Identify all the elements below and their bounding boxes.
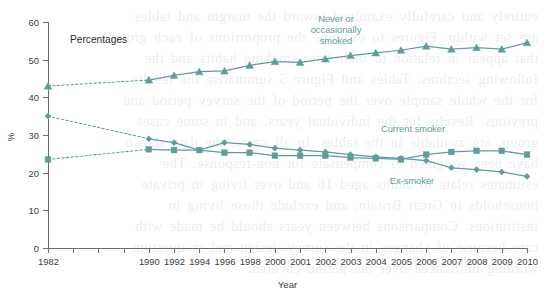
data-point-marker-diamond xyxy=(221,139,227,145)
annotation-never-smoked-line2: occasionally xyxy=(311,25,362,35)
data-point-marker-triangle xyxy=(523,39,531,46)
series-line-dashed xyxy=(48,149,149,159)
data-point-marker-square xyxy=(196,147,202,153)
x-tick-label: 2004 xyxy=(366,256,387,267)
x-tick-label: 2005 xyxy=(391,256,412,267)
data-point-marker-diamond xyxy=(45,113,51,119)
x-tick-label: 1998 xyxy=(240,256,261,267)
axes xyxy=(43,22,528,253)
x-axis-title: Year xyxy=(278,279,298,290)
chart-container: 0102030405060 19821990199219941996199820… xyxy=(0,0,548,296)
series-line-solid xyxy=(149,149,527,159)
y-tick-label: 60 xyxy=(29,17,39,28)
series-line-dashed xyxy=(48,80,149,86)
x-tick-label: 1990 xyxy=(139,256,160,267)
x-tick-label: 2000 xyxy=(265,256,286,267)
x-tick-label: 2009 xyxy=(492,256,513,267)
annotation-current-smoker: Current smoker xyxy=(381,124,445,134)
line-chart-svg: 0102030405060 19821990199219941996199820… xyxy=(0,0,548,296)
data-point-marker-square xyxy=(146,146,152,152)
data-point-marker-diamond xyxy=(272,145,278,151)
y-tick-label: 50 xyxy=(29,55,39,66)
series-line-solid xyxy=(149,139,527,177)
data-point-marker-diamond xyxy=(524,173,530,179)
x-tick-label: 2007 xyxy=(441,256,462,267)
annotation-never-smoked-line1: Never or xyxy=(318,14,354,24)
series-ex-smoker xyxy=(45,113,530,179)
data-point-marker-square xyxy=(322,153,328,159)
x-tick-label: 1996 xyxy=(215,256,236,267)
y-axis-title: % xyxy=(5,132,16,141)
data-point-marker-diamond xyxy=(146,136,152,142)
annotation-ex-smoker: Ex-smoker xyxy=(390,176,434,186)
y-tick-label: 0 xyxy=(34,243,39,254)
data-point-marker-square xyxy=(272,153,278,159)
data-point-marker-square xyxy=(45,157,51,163)
x-tick-label: 2003 xyxy=(341,256,362,267)
y-tick-label: 40 xyxy=(29,92,39,103)
x-axis-tick-labels: 1982199019921994199619982000200120022003… xyxy=(38,256,538,267)
y-tick-label: 30 xyxy=(29,130,39,141)
data-point-marker-diamond xyxy=(171,139,177,145)
x-tick-label: 2010 xyxy=(517,256,538,267)
data-point-marker-square xyxy=(373,155,379,161)
y-tick-label: 10 xyxy=(29,205,39,216)
data-point-marker-square xyxy=(398,157,404,163)
data-point-marker-square xyxy=(171,147,177,153)
data-point-marker-diamond xyxy=(423,158,429,164)
data-point-marker-diamond xyxy=(297,147,303,153)
series-line-solid xyxy=(149,43,527,80)
percentages-note: Percentages xyxy=(70,34,127,45)
data-point-marker-diamond xyxy=(499,169,505,175)
x-tick-label: 2008 xyxy=(467,256,488,267)
data-point-marker-square xyxy=(423,152,429,158)
x-tick-label: 2006 xyxy=(416,256,437,267)
data-point-marker-square xyxy=(524,152,530,158)
data-point-marker-square xyxy=(474,148,480,154)
y-axis-tick-labels: 0102030405060 xyxy=(29,17,39,254)
x-tick-label: 1992 xyxy=(164,256,185,267)
x-tick-label: 2001 xyxy=(290,256,311,267)
series-never-or-occasionally-smoked xyxy=(44,39,531,89)
data-point-marker-diamond xyxy=(473,167,479,173)
data-series-group xyxy=(44,39,531,180)
data-point-marker-diamond xyxy=(247,141,253,147)
x-tick-label: 1982 xyxy=(38,256,59,267)
data-point-marker-square xyxy=(247,150,253,156)
data-point-marker-square xyxy=(348,155,354,161)
x-tick-label: 2002 xyxy=(315,256,336,267)
y-tick-label: 20 xyxy=(29,168,39,179)
annotation-never-smoked-line3: smoked xyxy=(320,36,353,46)
data-point-marker-diamond xyxy=(448,165,454,171)
data-point-marker-square xyxy=(499,148,505,154)
data-point-marker-square xyxy=(297,153,303,159)
data-point-marker-square xyxy=(222,150,228,156)
data-point-marker-square xyxy=(448,149,454,155)
x-tick-label: 1994 xyxy=(189,256,210,267)
series-line-dashed xyxy=(48,116,149,139)
